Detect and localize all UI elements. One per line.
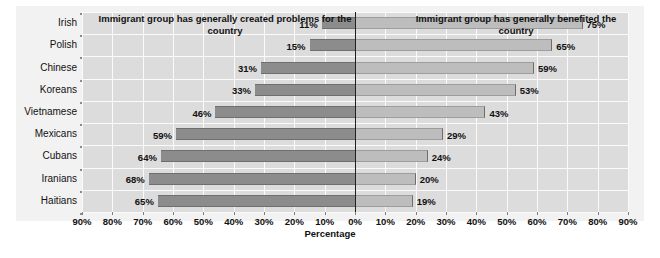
bar-value-label-benefited: 43% xyxy=(489,108,508,119)
bar-value-label-problems: 11% xyxy=(288,19,318,30)
category-tick xyxy=(80,102,82,104)
x-tick-label: 30% xyxy=(247,216,281,227)
x-tick-mark xyxy=(203,212,204,215)
bar-value-label-problems: 65% xyxy=(124,196,154,207)
plot-area xyxy=(82,12,628,212)
bar-segment-benefited xyxy=(355,173,416,185)
bar-value-label-problems: 46% xyxy=(181,108,211,119)
bar-value-label-problems: 15% xyxy=(276,41,306,52)
x-tick-mark xyxy=(82,212,83,215)
category-label: Cubans xyxy=(12,151,82,161)
x-tick-label: 30% xyxy=(429,216,463,227)
bar-value-label-benefited: 20% xyxy=(420,174,439,185)
x-tick-mark xyxy=(385,212,386,215)
bar-segment-problems xyxy=(310,39,356,51)
x-tick-label: 90% xyxy=(65,216,99,227)
x-tick-label: 80% xyxy=(95,216,129,227)
bar-value-label-benefited: 75% xyxy=(587,19,606,30)
x-tick-label: 20% xyxy=(277,216,311,227)
bar-segment-benefited xyxy=(355,150,428,162)
x-tick-mark xyxy=(355,212,356,215)
bar-segment-problems xyxy=(176,128,355,140)
x-tick-mark xyxy=(446,212,447,215)
x-tick-label: 0% xyxy=(338,216,372,227)
x-tick-label: 60% xyxy=(156,216,190,227)
bar-value-label-problems: 64% xyxy=(127,152,157,163)
bar-segment-problems xyxy=(261,62,355,74)
bar-segment-benefited xyxy=(355,62,534,74)
category-label: Chinese xyxy=(12,63,82,73)
caption-strip xyxy=(0,251,660,258)
gridline-vertical xyxy=(598,12,599,212)
bar-segment-problems xyxy=(149,173,355,185)
zero-axis-line xyxy=(355,12,356,212)
x-tick-label: 90% xyxy=(611,216,645,227)
category-tick xyxy=(80,80,82,82)
bar-segment-problems xyxy=(255,84,355,96)
chart-figure: Immigrant group has generally created pr… xyxy=(0,0,660,258)
gridline-vertical xyxy=(628,12,629,212)
x-tick-mark xyxy=(294,212,295,215)
x-tick-label: 60% xyxy=(520,216,554,227)
x-tick-label: 70% xyxy=(126,216,160,227)
bar-value-label-benefited: 65% xyxy=(556,41,575,52)
x-tick-mark xyxy=(325,212,326,215)
category-label: Vietnamese xyxy=(12,107,82,117)
bar-value-label-problems: 33% xyxy=(221,85,251,96)
bar-value-label-benefited: 19% xyxy=(417,196,436,207)
x-axis-title: Percentage xyxy=(0,228,660,239)
category-label: Iranians xyxy=(12,174,82,184)
bar-segment-benefited xyxy=(355,195,413,207)
x-tick-label: 20% xyxy=(399,216,433,227)
bar-segment-benefited xyxy=(355,39,552,51)
bar-value-label-benefited: 53% xyxy=(520,85,539,96)
gridline-vertical xyxy=(82,12,83,212)
category-tick xyxy=(80,35,82,37)
x-tick-label: 10% xyxy=(368,216,402,227)
bar-segment-benefited xyxy=(355,128,443,140)
category-label: Mexicans xyxy=(12,129,82,139)
bar-value-label-benefited: 29% xyxy=(447,130,466,141)
gridline-vertical xyxy=(112,12,113,212)
bar-segment-benefited xyxy=(355,84,516,96)
x-tick-mark xyxy=(112,212,113,215)
x-tick-mark xyxy=(416,212,417,215)
category-label: Irish xyxy=(12,18,82,28)
x-tick-label: 40% xyxy=(459,216,493,227)
bar-segment-problems xyxy=(158,195,355,207)
x-tick-mark xyxy=(567,212,568,215)
category-tick xyxy=(80,57,82,59)
bar-segment-problems xyxy=(215,106,355,118)
category-tick xyxy=(80,169,82,171)
category-label: Koreans xyxy=(12,85,82,95)
x-tick-label: 10% xyxy=(308,216,342,227)
category-tick xyxy=(80,191,82,193)
bar-value-label-problems: 68% xyxy=(115,174,145,185)
x-tick-mark xyxy=(628,212,629,215)
bar-value-label-problems: 59% xyxy=(142,130,172,141)
x-tick-mark xyxy=(507,212,508,215)
bar-segment-benefited xyxy=(355,106,485,118)
bar-value-label-problems: 31% xyxy=(227,63,257,74)
x-tick-label: 50% xyxy=(186,216,220,227)
x-tick-label: 50% xyxy=(490,216,524,227)
category-label: Polish xyxy=(12,40,82,50)
x-tick-mark xyxy=(264,212,265,215)
category-label: Haitians xyxy=(12,196,82,206)
bar-segment-problems xyxy=(161,150,355,162)
x-tick-label: 80% xyxy=(581,216,615,227)
x-tick-mark xyxy=(598,212,599,215)
category-tick xyxy=(80,146,82,148)
x-tick-label: 70% xyxy=(550,216,584,227)
category-tick xyxy=(80,13,82,15)
x-tick-label: 40% xyxy=(217,216,251,227)
x-tick-mark xyxy=(476,212,477,215)
x-tick-mark xyxy=(143,212,144,215)
x-tick-mark xyxy=(537,212,538,215)
x-tick-mark xyxy=(173,212,174,215)
bar-value-label-benefited: 59% xyxy=(538,63,557,74)
x-tick-mark xyxy=(234,212,235,215)
category-tick xyxy=(80,124,82,126)
bar-value-label-benefited: 24% xyxy=(432,152,451,163)
